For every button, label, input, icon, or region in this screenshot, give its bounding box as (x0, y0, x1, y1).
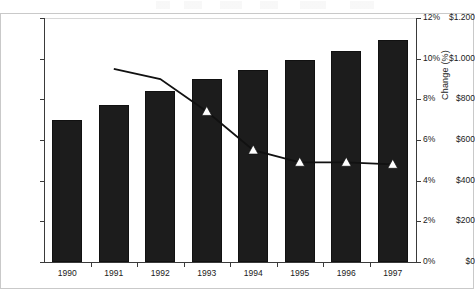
right-axis-title: Change (%) (440, 20, 450, 100)
bar (145, 91, 175, 262)
x-axis-tick-label: 1997 (370, 268, 416, 278)
left-axis-tick (40, 221, 44, 222)
x-axis-tick (323, 263, 324, 267)
right-axis-tick (417, 59, 421, 60)
right-axis-tick-label: 6% (423, 135, 453, 144)
right-axis-tick (417, 18, 421, 19)
x-axis-tick-label: 1992 (137, 268, 183, 278)
right-axis-tick (417, 221, 421, 222)
left-axis-tick (40, 140, 44, 141)
x-axis-tick-label: 1995 (277, 268, 323, 278)
right-axis-tick-label: 4% (423, 176, 453, 185)
bar (52, 120, 82, 262)
right-axis-tick (417, 262, 421, 263)
bar (378, 40, 408, 262)
x-axis-tick-label: 1990 (44, 268, 90, 278)
x-axis-tick-label: 1996 (323, 268, 369, 278)
left-axis-tick (40, 99, 44, 100)
x-axis-tick (370, 263, 371, 267)
left-axis-tick (40, 262, 44, 263)
bar (192, 79, 222, 262)
left-axis-tick (40, 181, 44, 182)
top-edge-artifact (150, 1, 400, 9)
right-axis-tick (417, 140, 421, 141)
right-axis-tick-label: 2% (423, 216, 453, 225)
x-axis-tick-label: 1993 (184, 268, 230, 278)
x-axis-tick-label: 1991 (91, 268, 137, 278)
x-axis-tick (137, 263, 138, 267)
right-axis-tick (417, 99, 421, 100)
right-axis-tick (417, 181, 421, 182)
bar (331, 51, 361, 262)
left-axis-line (44, 18, 45, 263)
bar (238, 70, 268, 262)
x-axis-tick (277, 263, 278, 267)
x-axis-tick-label: 1994 (230, 268, 276, 278)
right-axis-tick-label: 0% (423, 257, 453, 266)
bar (285, 60, 315, 262)
chart-container: $0$200$400$600$800$1.000$1.200 0%2%4%6%8… (0, 0, 475, 290)
bar (99, 105, 129, 262)
plot-top-rule (44, 18, 417, 19)
x-axis-tick (91, 263, 92, 267)
x-axis-tick (230, 263, 231, 267)
x-axis-tick (184, 263, 185, 267)
left-axis-tick (40, 18, 44, 19)
left-axis-tick (40, 59, 44, 60)
